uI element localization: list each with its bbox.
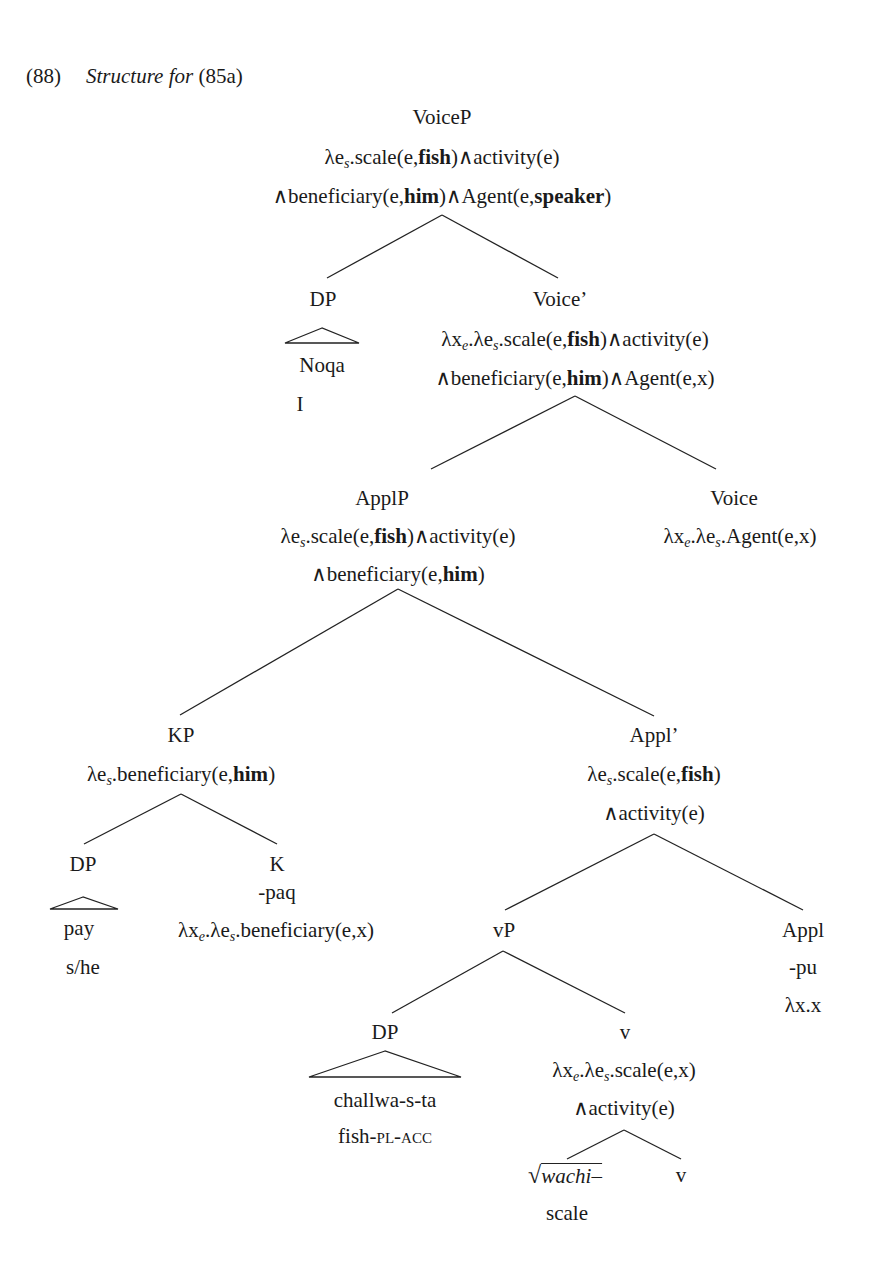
node-applbar-sem2: ∧activity(e)	[603, 801, 705, 825]
node-dp3-gloss: fish-pl-acc	[338, 1124, 432, 1148]
node-voicebar-label: Voice’	[533, 287, 587, 311]
node-root-gloss: scale	[546, 1201, 588, 1225]
sqrt-icon: √	[528, 1162, 541, 1188]
node-appl-morph: -pu	[789, 955, 817, 979]
node-voice-sem1: λxe.λes.Agent(e,x)	[664, 524, 817, 548]
node-dp2-gloss: s/he	[66, 955, 100, 979]
gloss-stem: fish-	[338, 1124, 377, 1148]
node-applp-label: ApplP	[355, 486, 409, 510]
node-dp1-label: DP	[310, 287, 337, 311]
node-applp-sem1: λes.scale(e,fish)∧activity(e)	[280, 524, 515, 548]
node-vp-label: vP	[493, 918, 515, 942]
node-dp3-word: challwa-s-ta	[334, 1088, 437, 1112]
node-dp2-label: DP	[70, 852, 97, 876]
node-voicep-sem2: ∧beneficiary(e,him)∧Agent(e,speaker)	[273, 184, 612, 208]
node-dp1-gloss: I	[297, 392, 304, 416]
node-v-label: v	[620, 1020, 631, 1044]
node-v-sem2: ∧activity(e)	[573, 1096, 675, 1120]
example-caption: Structure for (85a)	[86, 64, 243, 88]
node-applbar-sem1: λes.scale(e,fish)	[587, 762, 720, 786]
node-dp1-word: Noqa	[299, 353, 345, 377]
gloss-caps: pl-acc	[377, 1124, 432, 1148]
node-root-label: √wachi–	[528, 1163, 602, 1188]
node-v2-label: v	[676, 1163, 687, 1187]
node-voice-label: Voice	[710, 486, 757, 510]
root-text: wachi–	[541, 1163, 602, 1188]
node-kp-label: KP	[168, 723, 195, 747]
node-kp-sem1: λes.beneficiary(e,him)	[87, 762, 275, 786]
node-voicep-label: VoiceP	[412, 105, 471, 129]
node-v-sem1: λxe.λes.scale(e,x)	[552, 1058, 695, 1082]
node-k-label: K	[269, 852, 284, 876]
node-dp2-word: pay	[64, 916, 94, 940]
node-k-sem1: λxe.λes.beneficiary(e,x)	[178, 918, 374, 942]
example-number: (88)	[26, 64, 61, 88]
caption-ref: (85a)	[198, 64, 242, 88]
node-appl-sem1: λx.x	[785, 993, 821, 1017]
node-voicep-sem1: λes.scale(e,fish)∧activity(e)	[324, 145, 559, 169]
node-voicebar-sem2: ∧beneficiary(e,him)∧Agent(e,x)	[435, 366, 714, 390]
node-applp-sem2: ∧beneficiary(e,him)	[311, 562, 484, 586]
node-appl-label: Appl	[782, 918, 824, 942]
node-applbar-label: Appl’	[630, 723, 679, 747]
caption-text: Structure for	[86, 64, 193, 88]
node-dp3-label: DP	[372, 1020, 399, 1044]
node-k-morph: -paq	[258, 880, 295, 904]
node-voicebar-sem1: λxe.λes.scale(e,fish)∧activity(e)	[441, 327, 708, 351]
